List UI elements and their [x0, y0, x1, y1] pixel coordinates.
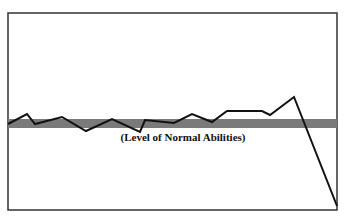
chart-frame: [8, 13, 337, 210]
abilities-line: [8, 97, 337, 206]
band-label: (Level of Normal Abilities): [121, 131, 246, 144]
chart-canvas: (Level of Normal Abilities): [0, 0, 344, 220]
